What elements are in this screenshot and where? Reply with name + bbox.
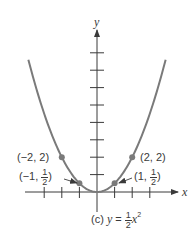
point-label-prefix: (1, [134,170,147,182]
point-label-prefix: (−1, [19,170,38,182]
data-point [129,154,135,160]
point-label-neg2-2: (−2, 2) [17,152,49,163]
x-axis-label: x [182,186,187,198]
data-point [112,180,118,186]
point-label-neg1-half: (−1, 12) [19,168,52,187]
parabola-chart [0,0,196,242]
y-axis-label: y [94,16,99,28]
pointer-arrow-right [119,178,132,183]
point-label-1-half: (1, 12) [134,168,161,187]
chart-caption: (c) y = 12x2 [91,211,141,230]
data-point [76,180,82,186]
point-label-2-2: (2, 2) [140,152,166,163]
data-point [59,154,65,160]
caption-fraction: 12 [125,211,132,230]
fraction: 12 [150,168,157,187]
